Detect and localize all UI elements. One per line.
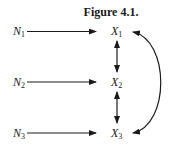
diagram-edges — [0, 0, 182, 145]
edge-x1-x3-curved — [133, 32, 161, 133]
